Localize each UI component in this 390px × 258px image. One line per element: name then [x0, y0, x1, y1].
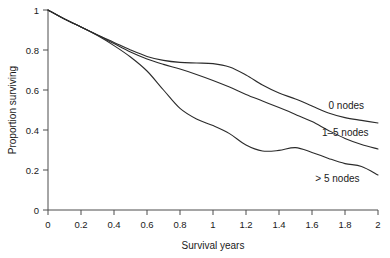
- x-tick-label: 0.2: [74, 219, 87, 230]
- series-label: 1–5 nodes: [322, 127, 369, 138]
- x-tick-label: 1: [210, 219, 215, 230]
- series-label: 0 nodes: [329, 100, 365, 111]
- y-axis-title: Proportion surviving: [7, 66, 18, 154]
- series-curves: [48, 10, 378, 175]
- y-tick-label: 1: [34, 5, 39, 16]
- x-tick-label: 1.8: [338, 219, 351, 230]
- x-tick-label: 0: [45, 219, 50, 230]
- series-label: > 5 nodes: [315, 173, 359, 184]
- y-axis: 00.20.40.60.81 Proportion surviving: [7, 5, 48, 216]
- x-tick-label: 1.2: [239, 219, 252, 230]
- survival-curve-chart: 00.20.40.60.81 Proportion surviving 00.2…: [0, 0, 390, 258]
- x-axis: 00.20.40.60.811.21.41.61.82 Survival yea…: [45, 210, 380, 251]
- x-tick-label: 1.6: [305, 219, 318, 230]
- y-axis-ticks: [43, 10, 48, 210]
- y-tick-label: 0.6: [26, 85, 39, 96]
- x-tick-label: 0.8: [173, 219, 186, 230]
- x-tick-label: 1.4: [272, 219, 285, 230]
- chart-canvas: 00.20.40.60.81 Proportion surviving 00.2…: [0, 0, 390, 258]
- y-tick-label: 0.4: [26, 125, 39, 136]
- y-axis-tick-labels: 00.20.40.60.81: [26, 5, 39, 216]
- x-axis-title: Survival years: [182, 240, 245, 251]
- y-tick-label: 0: [34, 205, 39, 216]
- y-tick-label: 0.2: [26, 165, 39, 176]
- y-tick-label: 0.8: [26, 45, 39, 56]
- series-annotations: 0 nodes1–5 nodes> 5 nodes: [315, 100, 368, 185]
- x-axis-ticks: [48, 210, 378, 215]
- x-tick-label: 0.4: [107, 219, 120, 230]
- x-axis-tick-labels: 00.20.40.60.811.21.41.61.82: [45, 219, 380, 230]
- x-tick-label: 2: [375, 219, 380, 230]
- x-tick-label: 0.6: [140, 219, 153, 230]
